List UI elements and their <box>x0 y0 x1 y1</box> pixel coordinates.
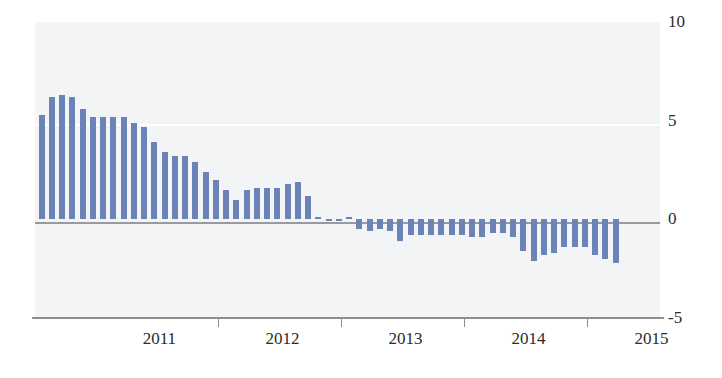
bar <box>162 152 168 219</box>
bar <box>367 219 373 231</box>
bar <box>244 190 250 220</box>
bar <box>151 142 157 219</box>
bar <box>469 219 475 237</box>
bar <box>602 219 608 258</box>
bar <box>203 172 209 219</box>
bar <box>172 156 178 219</box>
bar <box>336 219 342 221</box>
x-axis-tick <box>587 318 588 327</box>
bar <box>387 219 393 231</box>
chart-figure: 1050-5 20112012201320142015 <box>0 0 722 378</box>
bar <box>121 117 127 220</box>
bar <box>69 97 75 219</box>
bar <box>223 190 229 220</box>
bar <box>254 188 260 220</box>
bar <box>90 117 96 220</box>
bar <box>285 184 291 220</box>
bar <box>182 156 188 219</box>
bar <box>356 219 362 229</box>
bar <box>561 219 567 247</box>
bar <box>295 182 301 219</box>
bar <box>100 117 106 220</box>
bar <box>541 219 547 255</box>
bar-series <box>35 22 660 318</box>
x-tick-label: 2011 <box>124 330 194 347</box>
bar <box>264 188 270 220</box>
x-axis-tick <box>464 318 465 327</box>
bar <box>613 219 619 262</box>
x-tick-label: 2013 <box>370 330 440 347</box>
bar <box>80 109 86 220</box>
bar <box>531 219 537 260</box>
bar <box>408 219 414 235</box>
bar <box>213 180 219 219</box>
x-tick-label: 2015 <box>616 330 686 347</box>
bar <box>428 219 434 235</box>
bar <box>449 219 455 235</box>
bar <box>192 162 198 219</box>
bar <box>39 115 45 220</box>
x-tick-label: 2014 <box>493 330 563 347</box>
bar <box>479 219 485 237</box>
bar <box>233 200 239 220</box>
bar <box>141 127 147 220</box>
bar <box>438 219 444 235</box>
bar <box>59 95 65 219</box>
x-tick-label: 2012 <box>247 330 317 347</box>
bar <box>582 219 588 247</box>
bar <box>346 217 352 219</box>
bar <box>551 219 557 253</box>
bar <box>397 219 403 241</box>
bar <box>326 219 332 221</box>
bar <box>572 219 578 247</box>
bar <box>274 188 280 220</box>
y-tick-label: -5 <box>668 309 714 326</box>
bar <box>305 196 311 220</box>
bar <box>500 219 506 233</box>
bar <box>131 123 137 220</box>
bar <box>377 219 383 229</box>
bar <box>592 219 598 255</box>
bar <box>418 219 424 235</box>
bar <box>490 219 496 233</box>
y-tick-label: 10 <box>668 13 714 30</box>
bar <box>459 219 465 235</box>
x-axis-tick <box>341 318 342 327</box>
x-axis-line <box>32 317 664 319</box>
y-tick-label: 0 <box>668 210 714 227</box>
bar <box>520 219 526 251</box>
bar <box>49 97 55 219</box>
bar <box>110 117 116 220</box>
bar <box>315 217 321 219</box>
plot-area <box>35 22 660 318</box>
x-axis-tick <box>218 318 219 327</box>
y-tick-label: 5 <box>668 112 714 129</box>
bar <box>510 219 516 237</box>
